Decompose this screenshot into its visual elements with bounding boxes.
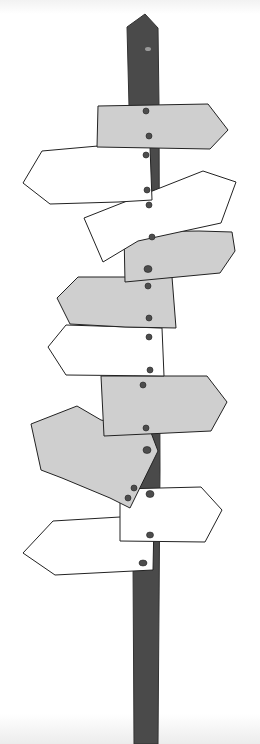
sign-7 — [101, 376, 227, 436]
sign-6 — [48, 325, 164, 376]
sign-1 — [97, 104, 228, 149]
signpost-illustration — [0, 0, 260, 744]
sign-2 — [23, 146, 152, 204]
sign-5 — [57, 277, 176, 328]
pole-highlight — [145, 47, 151, 51]
